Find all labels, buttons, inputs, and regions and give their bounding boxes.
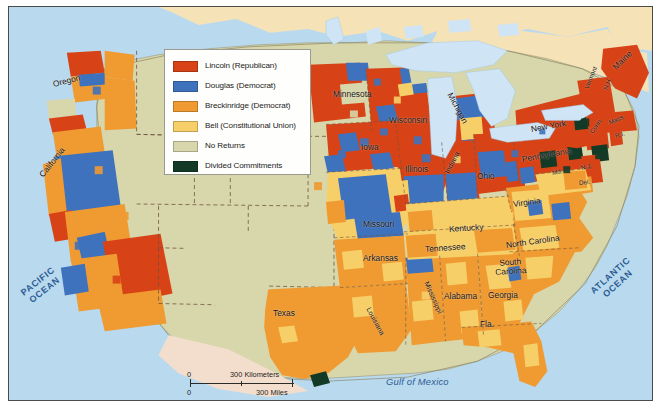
region-fl-bell2 [523,343,539,367]
map-canvas: Lincoln (Republican) Douglas (Democrat) … [9,7,652,400]
legend-label-lincoln: Lincoln (Republican) [205,62,277,70]
region-washington [67,51,105,77]
scale-tick-end [292,379,293,387]
lake-small-north2 [404,25,424,39]
scale-mi-zero: 0 [187,388,191,397]
region-mo-douglas [338,174,392,220]
lake-small-north3 [448,19,472,33]
legend-item-douglas: Douglas (Democrat) [173,77,304,96]
legend-label-breckinridge: Breckinridge (Democrat) [205,102,290,110]
region-la-bell [352,296,374,318]
region-sc-bell [525,256,553,280]
region-ky-breck [408,210,434,232]
legend-swatch-no-returns [173,141,198,152]
gulf-of-mexico-label: Gulf of Mexico [386,376,449,387]
legend-item-breckinridge: Breckinridge (Democrat) [173,97,304,116]
region-mo-breck [326,200,346,224]
region-fl-bell [478,329,502,347]
region-in-douglas [446,172,478,202]
region-mn-noreturn [340,83,366,105]
region-va-douglas2 [527,200,543,216]
region-sc-douglas [507,266,521,282]
region-oregon-or2 [105,77,137,131]
map-geography-layer [9,7,652,400]
map-scale-bar: 0 300 Kilometers 0 300 Miles [184,368,309,401]
scale-km-label: 300 Kilometers [230,370,279,379]
scale-tick-mid [241,381,242,386]
legend-swatch-douglas [173,81,198,92]
region-cal-douglas-3 [61,264,89,296]
legend-item-lincoln: Lincoln (Republican) [173,57,304,76]
region-ms-bell [412,300,434,322]
legend-label-no-returns: No Returns [205,142,245,150]
scale-tick-start [190,379,191,387]
scale-mi-label: 300 Miles [256,388,288,397]
legend-item-bell: Bell (Constitutional Union) [173,117,304,136]
region-tn-breck [406,234,438,258]
region-ia-douglas2 [370,152,394,170]
legend-swatch-bell [173,121,198,132]
region-ga-bell [486,264,512,290]
legend-swatch-lincoln [173,61,198,72]
region-wa-douglas [79,73,106,87]
lake-small-north4 [497,23,519,37]
map-page: Lincoln (Republican) Douglas (Democrat) … [0,0,661,414]
region-wi-bell [398,83,414,97]
region-oh-douglas [478,150,508,178]
legend-label-bell: Bell (Constitutional Union) [205,122,296,130]
legend-swatch-divided [173,161,198,172]
legend-label-divided: Divided Commitments [205,162,282,170]
region-rhodeisland [609,128,623,146]
region-pa-douglas [519,166,535,184]
region-wa-orange2 [105,51,135,81]
scale-km-zero: 0 [187,370,191,379]
legend-swatch-breckinridge [173,101,198,112]
legend-item-no-returns: No Returns [173,137,304,156]
map-frame: Lincoln (Republican) Douglas (Democrat) … [8,6,653,401]
legend-label-douglas: Douglas (Democrat) [205,82,276,90]
region-ga-bell2 [503,300,523,322]
legend-item-divided: Divided Commitments [173,157,304,176]
map-legend: Lincoln (Republican) Douglas (Democrat) … [164,49,311,175]
